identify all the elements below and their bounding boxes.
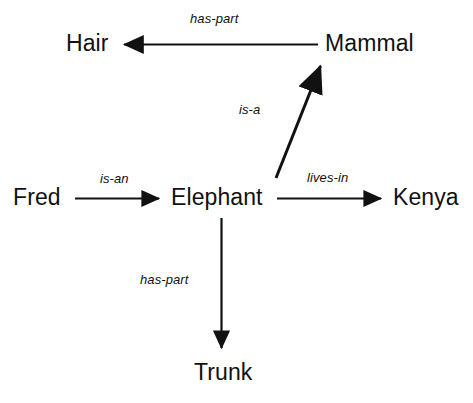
node-elephant[interactable]: Elephant xyxy=(171,186,263,209)
edge-label-fred-isan-elephant: is-an xyxy=(100,172,129,185)
edge-label-elephant-isa-mammal: is-a xyxy=(239,103,260,116)
node-kenya[interactable]: Kenya xyxy=(393,186,459,209)
edge-elephant-isa-mammal xyxy=(276,66,321,178)
semantic-network-diagram: Hair Mammal Fred Elephant Kenya Trunk ha… xyxy=(0,0,473,403)
node-mammal[interactable]: Mammal xyxy=(325,32,414,55)
node-fred[interactable]: Fred xyxy=(13,186,61,209)
node-trunk[interactable]: Trunk xyxy=(194,361,252,384)
edge-label-mammal-haspart-hair: has-part xyxy=(190,12,239,25)
node-hair[interactable]: Hair xyxy=(66,32,109,55)
edge-label-elephant-haspart-trunk: has-part xyxy=(140,273,189,286)
edge-label-elephant-livesin-kenya: lives-in xyxy=(307,171,348,184)
